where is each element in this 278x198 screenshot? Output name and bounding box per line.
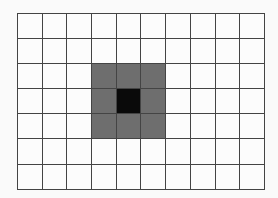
grid-cell-empty bbox=[43, 64, 68, 89]
grid-cell-empty bbox=[191, 14, 216, 39]
grid-cell-empty bbox=[117, 165, 142, 190]
grid-cell-empty bbox=[67, 165, 92, 190]
grid-cell-gray bbox=[92, 64, 117, 89]
grid-cell-empty bbox=[216, 14, 241, 39]
grid-cell-empty bbox=[191, 64, 216, 89]
grid-cell-empty bbox=[166, 14, 191, 39]
grid-cell-gray bbox=[92, 89, 117, 114]
grid-cell-empty bbox=[92, 14, 117, 39]
grid-cell-empty bbox=[18, 139, 43, 164]
grid-cell-empty bbox=[67, 14, 92, 39]
grid-cell-gray bbox=[141, 114, 166, 139]
grid-cell-empty bbox=[18, 89, 43, 114]
grid-cell-empty bbox=[43, 165, 68, 190]
grid-cell-empty bbox=[216, 89, 241, 114]
grid-cell-empty bbox=[191, 39, 216, 64]
grid-cell-empty bbox=[240, 14, 265, 39]
grid-cell-empty bbox=[166, 39, 191, 64]
grid-cell-empty bbox=[141, 139, 166, 164]
grid-cell-empty bbox=[191, 165, 216, 190]
grid-cell-empty bbox=[240, 64, 265, 89]
grid-cell-empty bbox=[191, 139, 216, 164]
grid-cell-empty bbox=[216, 114, 241, 139]
grid-cell-empty bbox=[92, 165, 117, 190]
grid-cell-empty bbox=[240, 114, 265, 139]
grid-cell-empty bbox=[67, 139, 92, 164]
grid-cell-empty bbox=[166, 165, 191, 190]
grid-cell-empty bbox=[92, 139, 117, 164]
grid-cell-empty bbox=[67, 39, 92, 64]
grid-cell-black bbox=[117, 89, 142, 114]
grid-cell-empty bbox=[141, 39, 166, 64]
grid-cell-empty bbox=[166, 139, 191, 164]
grid-cell-empty bbox=[216, 64, 241, 89]
grid-cell-empty bbox=[240, 165, 265, 190]
grid-cell-empty bbox=[67, 114, 92, 139]
grid-cell-empty bbox=[92, 39, 117, 64]
grid-cell-empty bbox=[216, 165, 241, 190]
grid-cell-empty bbox=[166, 64, 191, 89]
grid-cell-empty bbox=[240, 89, 265, 114]
grid-cell-empty bbox=[18, 14, 43, 39]
grid-cell-empty bbox=[43, 139, 68, 164]
grid-cell-empty bbox=[117, 139, 142, 164]
grid-cell-empty bbox=[191, 89, 216, 114]
grid-cell-empty bbox=[117, 39, 142, 64]
grid-cell-empty bbox=[117, 14, 142, 39]
grid-cell-empty bbox=[216, 139, 241, 164]
grid-cell-empty bbox=[166, 114, 191, 139]
grid-cell-empty bbox=[43, 14, 68, 39]
grid-cell-gray bbox=[141, 64, 166, 89]
grid-cell-empty bbox=[216, 39, 241, 64]
grid-cell-empty bbox=[141, 165, 166, 190]
grid-cell-gray bbox=[92, 114, 117, 139]
grid-cell-empty bbox=[43, 114, 68, 139]
grid-cell-empty bbox=[18, 39, 43, 64]
grid-cell-gray bbox=[117, 114, 142, 139]
grid-cell-empty bbox=[67, 64, 92, 89]
grid-cell-empty bbox=[166, 89, 191, 114]
grid-cell-gray bbox=[141, 89, 166, 114]
grid-cell-empty bbox=[18, 64, 43, 89]
grid-cell-empty bbox=[67, 89, 92, 114]
pixel-grid bbox=[17, 13, 265, 190]
grid-cell-empty bbox=[43, 89, 68, 114]
grid-cell-empty bbox=[191, 114, 216, 139]
grid-cell-gray bbox=[117, 64, 142, 89]
grid-cell-empty bbox=[240, 139, 265, 164]
grid-cell-empty bbox=[141, 14, 166, 39]
grid-cell-empty bbox=[43, 39, 68, 64]
grid-cell-empty bbox=[240, 39, 265, 64]
grid-cell-empty bbox=[18, 165, 43, 190]
grid-cell-empty bbox=[18, 114, 43, 139]
